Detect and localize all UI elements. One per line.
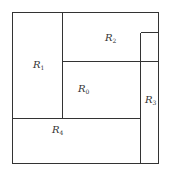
region-labels: R1R2R0R3R4 (32, 32, 157, 136)
rectangle-partition-diagram: R1R2R0R3R4 (0, 0, 171, 176)
region-label-r1: R1 (32, 59, 44, 71)
region-label-r4: R4 (51, 124, 64, 136)
region-label-r3: R3 (144, 94, 157, 106)
region-label-r0: R0 (77, 83, 90, 95)
region-label-r2: R2 (104, 32, 117, 44)
